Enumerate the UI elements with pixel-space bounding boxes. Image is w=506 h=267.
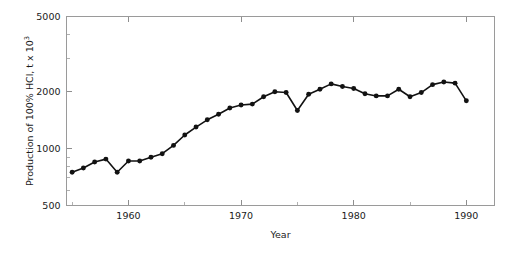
data-point <box>363 91 368 96</box>
data-point <box>205 117 210 122</box>
chart-figure: 500100020005000 1960197019801990 Product… <box>0 0 506 267</box>
data-point <box>430 82 435 87</box>
data-point <box>408 94 413 99</box>
data-point <box>374 93 379 98</box>
data-point <box>216 112 221 117</box>
data-point <box>464 98 469 103</box>
axis-frame <box>67 17 495 206</box>
data-point <box>126 159 131 164</box>
data-point <box>92 160 97 165</box>
y-axis-title: Production of 100% HCl, t x 103 <box>23 36 35 186</box>
y-tick-label: 2000 <box>36 86 60 97</box>
data-series-line <box>72 82 466 172</box>
data-point <box>396 87 401 92</box>
data-point <box>385 93 390 98</box>
y-axis-ticks <box>67 17 73 206</box>
data-point <box>182 133 187 138</box>
data-point <box>194 125 199 130</box>
x-axis-title: Year <box>269 229 290 240</box>
y-tick-label: 500 <box>42 200 60 211</box>
data-point <box>171 143 176 148</box>
data-point <box>70 170 75 175</box>
x-tick-label: 1960 <box>116 210 140 221</box>
data-point <box>81 166 86 171</box>
data-point <box>317 87 322 92</box>
production-line-chart: 500100020005000 1960197019801990 Product… <box>0 0 506 267</box>
data-point <box>351 86 356 91</box>
data-point <box>272 89 277 94</box>
data-point <box>441 80 446 85</box>
plot-border <box>67 17 495 206</box>
y-axis-tick-labels: 500100020005000 <box>36 11 60 211</box>
data-point <box>160 151 165 156</box>
x-tick-label: 1980 <box>342 210 366 221</box>
data-point <box>115 170 120 175</box>
y-tick-label: 5000 <box>36 11 60 22</box>
data-point <box>329 81 334 86</box>
data-point <box>261 94 266 99</box>
y-tick-label: 1000 <box>36 143 60 154</box>
x-axis-tick-labels: 1960197019801990 <box>116 210 478 221</box>
data-point <box>340 84 345 89</box>
data-point <box>103 157 108 162</box>
x-axis-ticks <box>72 17 466 206</box>
data-point <box>227 106 232 111</box>
x-tick-label: 1990 <box>454 210 478 221</box>
data-point <box>453 81 458 86</box>
data-point <box>149 155 154 160</box>
data-point <box>284 90 289 95</box>
data-point <box>419 90 424 95</box>
data-point <box>295 108 300 113</box>
x-tick-label: 1970 <box>229 210 253 221</box>
data-point <box>306 92 311 97</box>
data-point <box>250 102 255 107</box>
data-point <box>137 159 142 164</box>
data-point <box>239 103 244 108</box>
